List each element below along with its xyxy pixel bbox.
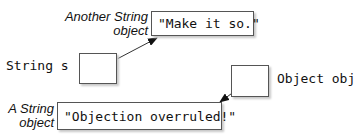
- variable-label-object-obj: Object obj: [277, 71, 355, 86]
- caption-line1: A String: [0, 102, 54, 116]
- reference-box-obj: [231, 65, 269, 97]
- caption-line2: object: [0, 116, 54, 130]
- caption-a-string-object: A String object: [0, 102, 54, 130]
- variable-label-string-s: String s: [6, 58, 69, 73]
- string-value: "Make it so.": [158, 16, 260, 31]
- string-object-make-it-so: "Make it so.": [151, 11, 254, 36]
- caption-line2: object: [40, 24, 148, 38]
- reference-box-s: [79, 53, 117, 84]
- caption-line1: Another String: [40, 10, 148, 24]
- string-value: "Objection overruled!": [64, 109, 236, 124]
- string-object-objection-overruled: "Objection overruled!": [57, 102, 222, 130]
- caption-another-string-object: Another String object: [40, 10, 148, 38]
